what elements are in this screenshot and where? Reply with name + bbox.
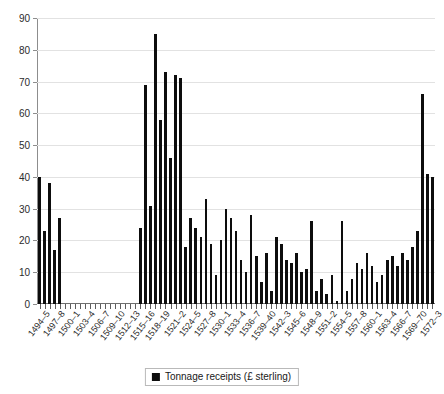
bar	[310, 221, 313, 304]
y-tick-label: 20	[19, 235, 30, 246]
bar	[220, 240, 223, 304]
bar	[341, 221, 344, 304]
bar	[189, 218, 192, 304]
bar	[174, 75, 177, 304]
bar	[48, 183, 51, 304]
bar	[386, 260, 389, 304]
bar	[391, 256, 394, 304]
y-tick-label: 70	[19, 76, 30, 87]
y-tick-label: 90	[19, 13, 30, 24]
bar	[320, 279, 323, 304]
bar	[351, 279, 354, 304]
bar	[240, 260, 243, 304]
bar	[179, 78, 182, 304]
legend-entry-label: Tonnage receipts (£ sterling)	[165, 371, 291, 382]
bar	[230, 218, 233, 304]
bar	[371, 266, 374, 304]
bar	[401, 253, 404, 304]
bar	[225, 209, 228, 304]
chart-legend: Tonnage receipts (£ sterling)	[145, 368, 299, 386]
bar	[154, 34, 157, 304]
x-axis-labels: 1494–51497–81500–11503–41506–71509–10151…	[37, 309, 435, 365]
bar-chart: Tonnage receipts in the port of Newcastl…	[0, 0, 444, 394]
bar	[245, 272, 248, 304]
bar	[210, 244, 213, 304]
plot-area: 0102030405060708090	[37, 18, 435, 304]
bar	[376, 282, 379, 304]
bar	[305, 269, 308, 304]
bar	[139, 228, 142, 304]
bar	[285, 260, 288, 304]
y-tick-label: 0	[24, 299, 30, 310]
bar	[396, 266, 399, 304]
bar	[200, 237, 203, 304]
bar	[38, 177, 41, 304]
bar	[366, 253, 369, 304]
bar-series	[37, 18, 435, 304]
bar	[295, 253, 298, 304]
bar	[149, 206, 152, 305]
bar	[426, 174, 429, 304]
bar	[250, 215, 253, 304]
bar	[346, 291, 349, 304]
bar	[159, 120, 162, 304]
bar	[270, 291, 273, 304]
bar	[421, 94, 424, 304]
y-tick-label: 80	[19, 44, 30, 55]
bar	[255, 256, 258, 304]
bar	[411, 247, 414, 304]
y-tick-label: 10	[19, 267, 30, 278]
bar	[215, 275, 218, 304]
bar	[235, 231, 238, 304]
bar	[144, 85, 147, 304]
y-tick-label: 60	[19, 108, 30, 119]
bar	[184, 247, 187, 304]
y-tick-label: 30	[19, 203, 30, 214]
bar	[356, 263, 359, 304]
bar	[265, 253, 268, 304]
bar	[406, 260, 409, 304]
bar	[361, 269, 364, 304]
bar	[381, 275, 384, 304]
bar	[431, 177, 434, 304]
bar	[280, 244, 283, 304]
bar	[260, 282, 263, 304]
bar	[416, 231, 419, 304]
bar	[300, 272, 303, 304]
y-tick-label: 40	[19, 171, 30, 182]
y-tick-label: 50	[19, 140, 30, 151]
bar	[58, 218, 61, 304]
bar	[315, 291, 318, 304]
bar	[164, 72, 167, 304]
bar	[331, 275, 334, 304]
bar	[169, 158, 172, 304]
bar	[194, 228, 197, 304]
bar	[205, 199, 208, 304]
bar	[275, 237, 278, 304]
bar	[43, 231, 46, 304]
legend-swatch-icon	[152, 373, 160, 381]
bar	[325, 294, 328, 304]
bar	[290, 263, 293, 304]
bar	[53, 250, 56, 304]
